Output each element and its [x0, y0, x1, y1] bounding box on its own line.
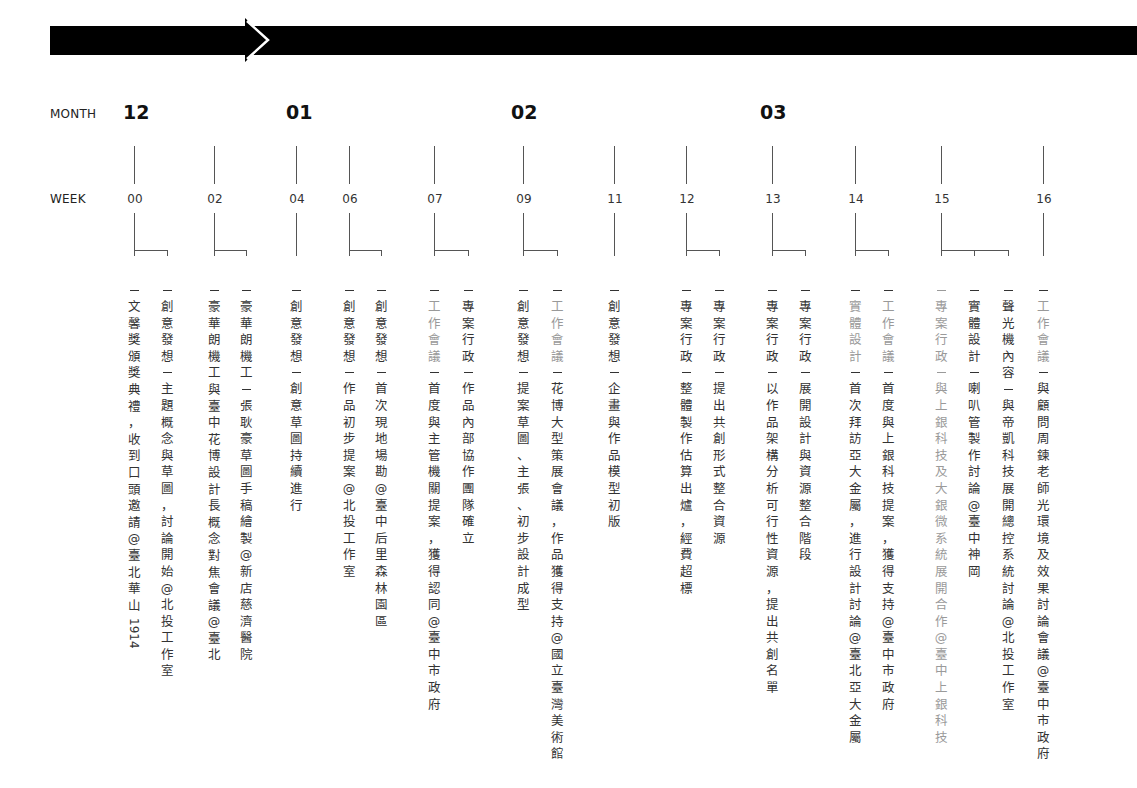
char: 館 — [551, 746, 564, 763]
char: 意 — [343, 316, 356, 333]
dash-marker — [682, 290, 691, 291]
char: 度 — [428, 398, 441, 415]
char: 度 — [882, 398, 895, 415]
dash-marker — [884, 290, 893, 291]
char: 對 — [208, 548, 221, 565]
char: 銀 — [882, 448, 895, 465]
char: 與 — [1037, 381, 1050, 398]
char: 工 — [208, 365, 221, 382]
char: 凱 — [1002, 431, 1015, 448]
char: 展 — [799, 381, 812, 398]
char: 源 — [713, 531, 726, 548]
dash-separator — [610, 372, 619, 373]
char: 與 — [208, 382, 221, 399]
char: 討 — [968, 464, 981, 481]
char: 架 — [766, 431, 779, 448]
char: 臺 — [849, 647, 862, 664]
char: 區 — [375, 614, 388, 631]
bracket-drop — [468, 250, 469, 256]
char: 請 — [128, 515, 141, 532]
char: 作 — [462, 464, 475, 481]
week-tick-top — [772, 146, 773, 184]
char: 光 — [1037, 498, 1050, 515]
char: 合 — [799, 514, 812, 531]
bracket-drop — [381, 250, 382, 256]
week-label: 11 — [607, 192, 622, 206]
char: 資 — [799, 464, 812, 481]
char: 鍊 — [1037, 448, 1050, 465]
char: ， — [882, 531, 895, 548]
char: 討 — [161, 514, 174, 531]
char: 主 — [428, 431, 441, 448]
char: 展 — [935, 564, 948, 581]
char: 體 — [968, 316, 981, 333]
dash-marker — [210, 290, 219, 291]
dash-separator — [163, 372, 172, 373]
char: 提 — [517, 381, 530, 398]
char: 案 — [713, 316, 726, 333]
char: 園 — [375, 597, 388, 614]
char: 案 — [935, 316, 948, 333]
bracket-drop — [719, 250, 720, 256]
char: 可 — [766, 498, 779, 515]
char: 源 — [799, 481, 812, 498]
char: 行 — [799, 332, 812, 349]
char: 想 — [517, 349, 530, 366]
char: 作 — [343, 547, 356, 564]
week-label: 06 — [342, 192, 357, 206]
char: 創 — [713, 431, 726, 448]
char: 科 — [1002, 448, 1015, 465]
char: 與 — [161, 448, 174, 465]
char: ， — [428, 531, 441, 548]
char: 大 — [849, 697, 862, 714]
char: 系 — [1002, 547, 1015, 564]
char: 統 — [935, 547, 948, 564]
char: 工 — [1002, 663, 1015, 680]
week-tick-top — [134, 146, 135, 184]
char: 統 — [1002, 564, 1015, 581]
bracket-horizontal — [772, 250, 806, 251]
event-category: 工作會議 — [551, 299, 564, 365]
dash-marker — [242, 290, 251, 291]
char: 討 — [1002, 581, 1015, 598]
char: 想 — [343, 349, 356, 366]
char: 與 — [1002, 398, 1015, 415]
char: 會 — [551, 332, 564, 349]
char: 環 — [1037, 514, 1050, 531]
dash-separator — [715, 372, 724, 373]
char: 叭 — [968, 398, 981, 415]
char: 意 — [161, 316, 174, 333]
char: 發 — [517, 332, 530, 349]
char: 作 — [462, 381, 475, 398]
char: @ — [1002, 614, 1015, 631]
char: 中 — [882, 647, 895, 664]
char: 討 — [1037, 597, 1050, 614]
char: 品 — [551, 547, 564, 564]
event-column: 工作會議花博大型策展會議，作品獲得支持@國立臺灣美術館 — [549, 283, 565, 763]
month-row-label: MONTH — [50, 107, 96, 121]
char: @ — [968, 498, 981, 515]
event-category: 創意發想 — [608, 299, 621, 365]
char: @ — [343, 481, 356, 498]
char: 計 — [849, 581, 862, 598]
char: 製 — [680, 415, 693, 432]
char: 始 — [161, 564, 174, 581]
char: 美 — [551, 713, 564, 730]
char: 顧 — [1037, 398, 1050, 415]
bracket-horizontal — [214, 250, 247, 251]
char: 作 — [428, 316, 441, 333]
event-text: 提案草圖、主張、初步設計成型 — [517, 381, 530, 613]
week-tick-top — [1043, 146, 1044, 184]
char: 、 — [517, 448, 530, 465]
char: 科 — [935, 713, 948, 730]
event-category: 專案行政 — [713, 299, 726, 365]
char: 作 — [551, 316, 564, 333]
event-category: 專案行政 — [462, 299, 475, 365]
char: 作 — [935, 614, 948, 631]
char: 北 — [343, 498, 356, 515]
char: 共 — [713, 415, 726, 432]
char: 工 — [161, 630, 174, 647]
week-label: 12 — [679, 192, 694, 206]
dash-marker — [163, 290, 172, 291]
dash-marker — [430, 290, 439, 291]
